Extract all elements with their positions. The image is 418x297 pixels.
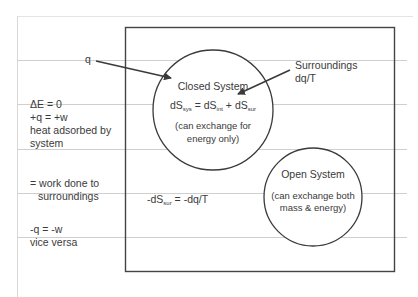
open-system-note-1: (can exchange both [259, 190, 367, 202]
left-note-vice-versa: vice versa [30, 236, 77, 249]
surroundings-label: Surroundings [295, 59, 357, 72]
open-system-note-2: mass & energy) [259, 202, 367, 214]
left-note-energy: ΔE = 0 [30, 98, 62, 111]
open-system-title: Open System [263, 168, 363, 181]
closed-system-entropy-equation: dSsys = dSint + dSsur [150, 99, 276, 116]
left-note-system: system [30, 137, 63, 150]
closed-system-note-1: (can exchange for [153, 120, 273, 132]
q-arrow [96, 61, 171, 78]
left-note-negative: -q = -w [30, 223, 62, 236]
q-label: q [85, 53, 91, 66]
left-note-heat: heat adsorbed by [30, 124, 111, 137]
closed-system-note-2: energy only) [153, 133, 273, 145]
left-note-work: = work done to [30, 177, 99, 190]
left-note-surroundings: surroundings [38, 190, 99, 203]
closed-system-title: Closed System [153, 80, 273, 93]
surroundings-entropy-equation: -dSsur = -dq/T [147, 193, 208, 210]
left-note-q-equals-w: +q = +w [30, 111, 68, 124]
surroundings-flow-label: dq/T [295, 72, 316, 85]
